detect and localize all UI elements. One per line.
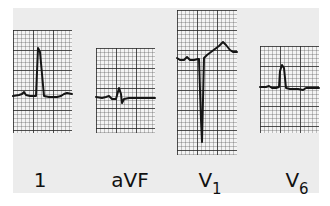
ecg-trace-lead-v1 (177, 10, 237, 155)
lead-label-v6: V6 (267, 170, 327, 199)
lead-label-v1: V1 (180, 170, 240, 199)
lead-label-v1-text: V (198, 168, 212, 192)
lead-label-v6-text: V (285, 168, 299, 192)
lead-label-i: 1 (10, 170, 70, 190)
ecg-trace-lead-i (13, 30, 72, 133)
ecg-strip-lead-avf (96, 48, 155, 133)
lead-label-avf-text: aVF (111, 168, 148, 192)
lead-label-i-text: 1 (34, 168, 47, 192)
ecg-trace-lead-v6 (260, 46, 319, 133)
ecg-trace-lead-avf (96, 48, 155, 133)
lead-label-v1-subscript: 1 (212, 180, 222, 198)
ecg-strip-lead-v6 (260, 46, 319, 133)
ecg-strip-lead-v1 (177, 10, 237, 155)
lead-label-avf: aVF (100, 170, 160, 190)
lead-label-v6-subscript: 6 (299, 180, 309, 198)
ecg-strip-lead-i (13, 30, 72, 133)
